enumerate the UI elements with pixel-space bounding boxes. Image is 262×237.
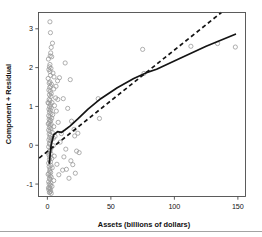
data-point (97, 116, 101, 120)
data-point (52, 75, 56, 79)
data-point (233, 45, 237, 49)
y-tick-label: 1 (29, 102, 33, 111)
x-axis-title: Assets (billions of dollars) (98, 220, 191, 229)
data-point (55, 79, 59, 83)
data-point (141, 47, 145, 51)
data-point (49, 45, 53, 49)
data-point (56, 120, 60, 124)
data-point (52, 154, 56, 158)
x-tick-label: 150 (232, 202, 244, 211)
data-point (64, 147, 68, 151)
data-point (66, 106, 70, 110)
data-point (55, 162, 59, 166)
data-point (62, 155, 66, 159)
plot-frame (39, 13, 246, 197)
data-point (57, 173, 61, 177)
data-point (63, 61, 67, 65)
y-tick-label: -1 (27, 180, 33, 189)
y-tick-label: 0 (29, 141, 33, 150)
data-point (57, 76, 61, 80)
chart-canvas: 050100150 -10123 Assets (billions of dol… (0, 0, 262, 237)
data-point (68, 78, 72, 82)
data-point (52, 178, 56, 182)
x-tick-label: 50 (107, 202, 115, 211)
data-point (46, 76, 50, 80)
component-residual-plot-figure: 050100150 -10123 Assets (billions of dol… (0, 0, 262, 237)
y-tick-label: 2 (29, 63, 33, 72)
data-point (71, 163, 75, 167)
smoother-curve (49, 34, 235, 163)
y-tick-label: 3 (29, 24, 33, 33)
x-tick-label: 0 (45, 202, 49, 211)
data-point (61, 97, 65, 101)
data-point (67, 176, 71, 180)
linear-fit-line (39, 13, 221, 159)
data-point (50, 41, 54, 45)
data-point (73, 134, 77, 138)
data-point (48, 31, 52, 35)
x-axis-ticks: 050100150 (45, 197, 243, 211)
x-tick-label: 100 (168, 202, 180, 211)
data-point (73, 171, 77, 175)
data-point (54, 109, 58, 113)
data-point (48, 20, 52, 24)
y-axis-ticks: -10123 (27, 24, 39, 188)
y-axis-title: Component + Residual (4, 64, 13, 144)
data-point (54, 84, 58, 88)
data-point (189, 44, 193, 48)
